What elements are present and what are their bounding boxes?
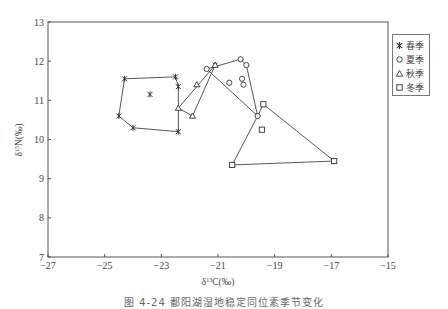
x-tick-label: −27 (40, 260, 56, 271)
triangle-marker-icon (190, 113, 196, 118)
legend-item-summer: 夏季 (395, 52, 427, 66)
legend: 春季 夏季 秋季 冬季 (392, 34, 430, 96)
asterisk-marker-icon (116, 113, 121, 119)
asterisk-marker-icon (148, 91, 153, 97)
triangle-marker-icon (395, 69, 404, 78)
x-axis-label: δ13C(‰) (202, 277, 235, 288)
asterisk-marker-icon (176, 84, 181, 90)
circle-marker-icon (204, 66, 209, 71)
data-points (116, 57, 336, 168)
circle-marker-icon (395, 55, 404, 64)
legend-item-autumn: 秋季 (395, 66, 427, 80)
square-marker-icon (230, 162, 235, 167)
x-tick-label: −25 (97, 260, 113, 271)
x-tick-label: −19 (267, 260, 283, 271)
legend-item-winter: 冬季 (395, 80, 427, 94)
square-marker-icon (259, 127, 264, 132)
circle-marker-icon (255, 113, 260, 118)
legend-label: 春季 (406, 39, 424, 52)
y-tick-label: 9 (39, 173, 44, 184)
y-tick-label: 11 (34, 95, 44, 106)
y-axis-label: δ15N(‰) (14, 123, 25, 156)
legend-label: 秋季 (406, 67, 424, 80)
plot-frame (48, 22, 388, 257)
circle-marker-icon (244, 62, 249, 67)
y-tick-label: 12 (34, 56, 44, 67)
x-tick-label: −21 (210, 260, 226, 271)
x-tick-label: −15 (380, 260, 396, 271)
square-marker-icon (332, 158, 337, 163)
x-tick-label: −23 (154, 260, 170, 271)
asterisk-marker-icon (395, 41, 404, 50)
y-tick-label: 10 (34, 134, 44, 145)
x-tick-label: −17 (324, 260, 340, 271)
circle-marker-icon (241, 82, 246, 87)
legend-label: 夏季 (406, 53, 424, 66)
hull-asterisk (119, 77, 178, 132)
hull-triangle (178, 65, 215, 116)
circle-marker-icon (238, 57, 243, 62)
legend-item-spring: 春季 (395, 38, 427, 52)
legend-label: 冬季 (406, 81, 424, 94)
circle-marker-icon (227, 80, 232, 85)
square-marker-icon (395, 83, 404, 92)
season-hulls (119, 59, 334, 165)
circle-marker-icon (239, 76, 244, 81)
y-tick-label: 8 (39, 212, 44, 223)
figure-caption: 图 4-24 鄱阳湖湿地稳定同位素季节变化 (0, 294, 448, 309)
y-tick-label: 13 (34, 17, 44, 28)
square-marker-icon (261, 102, 266, 107)
hull-square (232, 104, 334, 165)
